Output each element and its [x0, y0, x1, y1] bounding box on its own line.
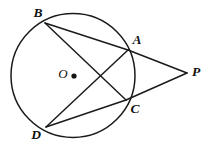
vertex-label-b: B: [32, 5, 42, 20]
segment-b-a: [45, 23, 128, 50]
vertex-label-a: A: [131, 32, 141, 47]
vertex-label-p: P: [192, 64, 201, 79]
center-label-o: O: [58, 66, 68, 81]
vertex-label-d: D: [30, 127, 41, 142]
geometry-diagram: O B A C D P: [0, 0, 213, 148]
vertex-label-c: C: [130, 101, 140, 116]
segment-b-c: [45, 23, 126, 100]
circle-geometry-figure: O B A C D P: [0, 0, 213, 148]
segment-a-p: [128, 50, 187, 73]
segment-d-a: [46, 50, 128, 127]
circle-center-dot: [71, 73, 76, 78]
